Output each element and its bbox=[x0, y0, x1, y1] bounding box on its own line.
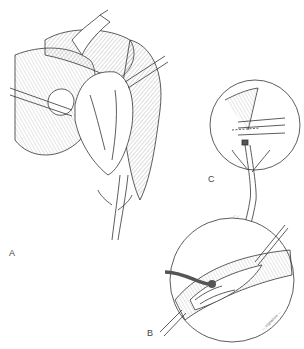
panel-c-inset bbox=[210, 80, 300, 200]
panel-a-drawing bbox=[10, 10, 168, 240]
panel-label-a: A bbox=[9, 248, 15, 258]
panel-label-b: B bbox=[147, 328, 153, 338]
panel-label-c: C bbox=[208, 174, 215, 184]
panel-b-inset bbox=[160, 218, 294, 342]
surgical-illustration bbox=[0, 0, 304, 349]
